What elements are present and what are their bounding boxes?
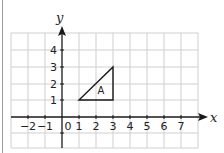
- x-tick-label: 7: [178, 120, 185, 133]
- x-tick-label: −1: [37, 120, 53, 133]
- x-tick-label: −2: [20, 120, 36, 133]
- x-tick-label: 4: [127, 120, 134, 133]
- x-tick-label: 2: [93, 120, 100, 133]
- coordinate-grid: x y −2 −1 0 1 2 3 4 5 6 7 1 2 3 4 A: [0, 0, 224, 153]
- y-tick-label: 1: [50, 94, 57, 107]
- y-tick-label: 2: [50, 78, 57, 91]
- x-tick-label: 1: [76, 120, 83, 133]
- x-tick-labels: −2 −1 0 1 2 3 4 5 6 7: [20, 120, 185, 133]
- y-tick-label: 4: [50, 44, 57, 57]
- y-tick-label: 3: [50, 61, 57, 74]
- origin-label: 0: [65, 120, 72, 133]
- y-axis-label: y: [55, 10, 64, 25]
- y-tick-labels: 1 2 3 4: [50, 44, 57, 107]
- x-axis-label: x: [210, 110, 218, 125]
- x-tick-label: 5: [144, 120, 151, 133]
- x-tick-label: 3: [110, 120, 117, 133]
- shape-label: A: [98, 85, 105, 96]
- x-tick-label: 6: [161, 120, 168, 133]
